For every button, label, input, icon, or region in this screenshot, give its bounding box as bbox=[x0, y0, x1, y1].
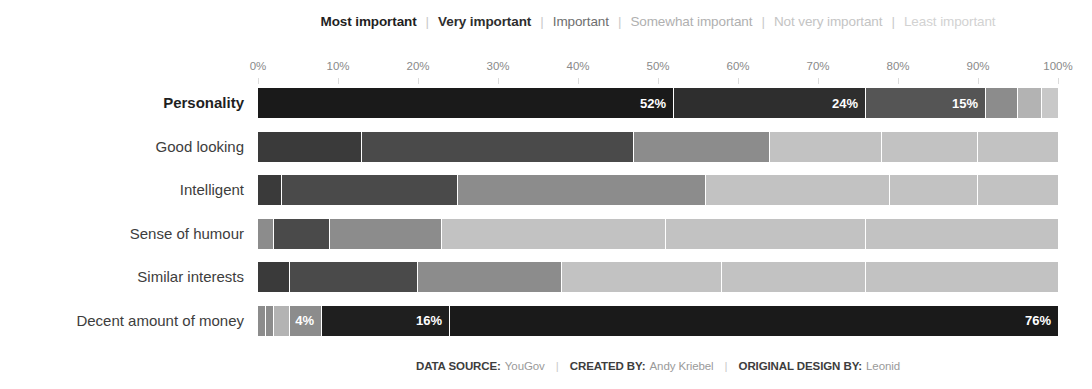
bar-segment[interactable] bbox=[978, 175, 1058, 205]
bar-segment[interactable] bbox=[258, 132, 362, 162]
bar-segment[interactable] bbox=[290, 262, 418, 292]
axis-tick-label: 70% bbox=[806, 60, 829, 72]
bar-segment[interactable] bbox=[1042, 88, 1058, 118]
stacked-bar-intelligent bbox=[258, 175, 1058, 205]
bar-segment[interactable] bbox=[330, 219, 442, 249]
legend-item-very-important[interactable]: Very important bbox=[438, 14, 531, 29]
stacked-bar-good-looking bbox=[258, 132, 1058, 162]
chart-rows: Personality52%24%15%Good lookingIntellig… bbox=[0, 88, 1092, 349]
row-label-sense-of-humour: Sense of humour bbox=[0, 219, 244, 249]
axis-tick-label: 40% bbox=[566, 60, 589, 72]
bar-segment[interactable] bbox=[706, 175, 890, 205]
row-label-personality: Personality bbox=[0, 88, 244, 118]
bar-segment[interactable] bbox=[258, 175, 282, 205]
axis-tick-label: 50% bbox=[646, 60, 669, 72]
footer-separator: | bbox=[714, 360, 739, 372]
bar-segment-label: 76% bbox=[1025, 313, 1058, 328]
chart-row-decent-amount-of-money: Decent amount of money4%16%76% bbox=[0, 306, 1092, 350]
bar-segment[interactable] bbox=[986, 88, 1018, 118]
bar-segment[interactable] bbox=[266, 306, 274, 336]
legend-separator: | bbox=[609, 14, 631, 29]
bar-segment[interactable] bbox=[866, 262, 1058, 292]
row-label-similar-interests: Similar interests bbox=[0, 262, 244, 292]
legend-separator: | bbox=[882, 14, 904, 29]
axis-tick-label: 80% bbox=[886, 60, 909, 72]
bar-segment[interactable] bbox=[458, 175, 706, 205]
bar-segment[interactable]: 24% bbox=[674, 88, 866, 118]
bar-segment[interactable] bbox=[978, 132, 1058, 162]
bar-segment-label: 16% bbox=[416, 313, 449, 328]
bar-segment[interactable] bbox=[442, 219, 666, 249]
axis-tick-mark bbox=[978, 78, 979, 84]
bar-segment[interactable] bbox=[258, 219, 274, 249]
bar-segment[interactable] bbox=[362, 132, 634, 162]
footer-value: Andy Kriebel bbox=[646, 360, 714, 372]
bar-segment[interactable] bbox=[418, 262, 562, 292]
axis-tick-label: 100% bbox=[1043, 60, 1072, 72]
bar-segment-label: 52% bbox=[640, 96, 673, 111]
bar-segment[interactable] bbox=[282, 175, 458, 205]
footer-key: CREATED BY: bbox=[570, 360, 646, 372]
axis-tick-mark bbox=[258, 78, 259, 84]
bar-segment-label: 15% bbox=[952, 96, 985, 111]
legend-separator: | bbox=[417, 14, 439, 29]
axis-tick-label: 0% bbox=[250, 60, 267, 72]
axis-tick-label: 60% bbox=[726, 60, 749, 72]
axis-tick-label: 30% bbox=[486, 60, 509, 72]
axis-tick-label: 20% bbox=[406, 60, 429, 72]
stacked-bar-similar-interests bbox=[258, 262, 1058, 292]
legend-item-most-important[interactable]: Most important bbox=[320, 14, 416, 29]
axis-tick-mark bbox=[338, 78, 339, 84]
bar-segment[interactable] bbox=[274, 306, 290, 336]
row-label-decent-amount-of-money: Decent amount of money bbox=[0, 306, 244, 336]
chart-row-similar-interests: Similar interests bbox=[0, 262, 1092, 306]
bar-segment[interactable] bbox=[722, 262, 866, 292]
axis-tick-label: 90% bbox=[966, 60, 989, 72]
axis-tick-mark bbox=[898, 78, 899, 84]
bar-segment[interactable]: 4% bbox=[290, 306, 322, 336]
legend-item-not-very-important[interactable]: Not very important bbox=[774, 14, 883, 29]
bar-segment-label: 4% bbox=[295, 313, 321, 328]
bar-segment[interactable] bbox=[866, 219, 1058, 249]
x-axis: 0%10%20%30%40%50%60%70%80%90%100% bbox=[258, 60, 1058, 86]
footer-key: ORIGINAL DESIGN BY: bbox=[739, 360, 863, 372]
chart-page: Most important|Very important|Important|… bbox=[0, 0, 1092, 389]
axis-tick-mark bbox=[738, 78, 739, 84]
axis-tick-label: 10% bbox=[326, 60, 349, 72]
chart-row-sense-of-humour: Sense of humour bbox=[0, 219, 1092, 263]
axis-tick-mark bbox=[498, 78, 499, 84]
footer-separator: | bbox=[545, 360, 570, 372]
bar-segment-label: 24% bbox=[832, 96, 865, 111]
footer-key: DATA SOURCE: bbox=[416, 360, 501, 372]
bar-segment[interactable] bbox=[1018, 88, 1042, 118]
footer-value: YouGov bbox=[501, 360, 545, 372]
stacked-bar-decent-amount-of-money: 4%16%76% bbox=[258, 306, 1058, 336]
bar-segment[interactable]: 52% bbox=[258, 88, 674, 118]
bar-segment[interactable] bbox=[770, 132, 882, 162]
stacked-bar-sense-of-humour bbox=[258, 219, 1058, 249]
bar-segment[interactable]: 16% bbox=[322, 306, 450, 336]
bar-segment[interactable] bbox=[890, 175, 978, 205]
bar-segment[interactable] bbox=[634, 132, 770, 162]
bar-segment[interactable] bbox=[274, 219, 330, 249]
legend-item-important[interactable]: Important bbox=[553, 14, 609, 29]
legend-item-somewhat-important[interactable]: Somewhat important bbox=[630, 14, 752, 29]
row-label-good-looking: Good looking bbox=[0, 132, 244, 162]
axis-tick-mark bbox=[578, 78, 579, 84]
bar-segment[interactable]: 15% bbox=[866, 88, 986, 118]
bar-segment[interactable] bbox=[562, 262, 722, 292]
bar-segment[interactable] bbox=[258, 262, 290, 292]
axis-tick-mark bbox=[818, 78, 819, 84]
bar-segment[interactable] bbox=[258, 306, 266, 336]
legend-separator: | bbox=[752, 14, 774, 29]
footer-value: Leonid bbox=[862, 360, 900, 372]
legend-item-least-important[interactable]: Least important bbox=[904, 14, 996, 29]
chart-row-personality: Personality52%24%15% bbox=[0, 88, 1092, 132]
bar-segment[interactable]: 76% bbox=[450, 306, 1058, 336]
bar-segment[interactable] bbox=[666, 219, 866, 249]
chart-row-good-looking: Good looking bbox=[0, 132, 1092, 176]
bar-segment[interactable] bbox=[882, 132, 978, 162]
axis-tick-mark bbox=[418, 78, 419, 84]
axis-tick-mark bbox=[1058, 78, 1059, 84]
row-label-intelligent: Intelligent bbox=[0, 175, 244, 205]
